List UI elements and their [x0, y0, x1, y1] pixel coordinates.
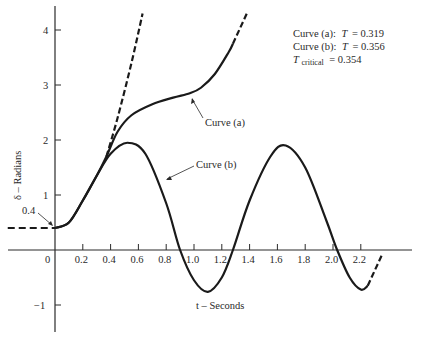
legend: Curve (a): T = 0.319 Curve (b): T = 0.35…: [293, 28, 385, 67]
swing-curve-chart: 00.20.40.60.81.01.21.41.61.82.02.2 −1123…: [0, 0, 423, 348]
annotation-initial-angle: 0.4: [22, 205, 53, 226]
svg-text:Curve (b): Curve (b): [196, 159, 237, 171]
y-tick-label: 3: [43, 80, 48, 91]
curve-a-divergent-branch: [106, 14, 142, 157]
x-tick-label: 0: [45, 254, 50, 265]
x-tick-label: 1.0: [186, 254, 199, 265]
annotation-curve-b: Curve (b): [166, 159, 237, 180]
svg-text:T critical = 0.354: T critical = 0.354: [293, 54, 362, 67]
annotation-curve-a: Curve (a): [191, 98, 245, 129]
y-ticks: −11234: [34, 25, 61, 311]
y-tick-label: −1: [34, 300, 45, 311]
x-tick-label: 1.2: [214, 254, 227, 265]
x-tick-label: 0.8: [158, 254, 171, 265]
svg-text:Curve (a): Curve (a): [205, 117, 245, 129]
x-tick-label: 1.4: [242, 254, 256, 265]
svg-text:Curve (b): T = 0.3: Curve (b): T = 0.356: [293, 41, 385, 53]
x-tick-label: 0.2: [75, 254, 88, 265]
svg-text:0.4: 0.4: [22, 205, 36, 216]
y-axis-label: δ – Radians: [12, 151, 23, 200]
x-tick-label: 2.0: [325, 254, 338, 265]
x-tick-label: 2.2: [353, 254, 366, 265]
y-tick-label: 4: [43, 25, 49, 36]
svg-text:Curve (a): T = 0.3: Curve (a): T = 0.319: [293, 28, 384, 40]
x-tick-label: 0.6: [130, 254, 143, 265]
curve-a-divergent-end: [233, 14, 247, 44]
x-axis-label: t – Seconds: [196, 300, 244, 311]
x-tick-label: 0.4: [103, 254, 117, 265]
curve-b-dashed-end: [368, 256, 382, 286]
x-ticks: 00.20.40.60.81.01.21.41.61.82.02.2: [45, 244, 366, 265]
y-tick-label: 2: [43, 135, 48, 146]
x-tick-label: 1.6: [269, 254, 282, 265]
y-tick-label: 1: [43, 190, 48, 201]
x-tick-label: 1.8: [297, 254, 310, 265]
